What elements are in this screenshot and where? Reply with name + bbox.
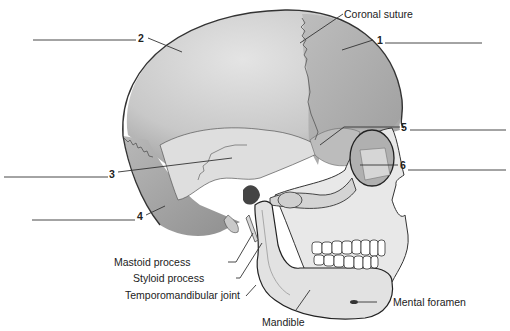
answer-blank-1: [385, 30, 482, 42]
label-number-1: 1: [377, 35, 383, 46]
mastoid-process-label: Mastoid process: [114, 257, 190, 268]
label-number-5: 5: [401, 122, 407, 133]
temporomandibular-joint-label: Temporomandibular joint: [125, 290, 240, 301]
ethmoid-lacrimal: [360, 148, 390, 180]
coronal-suture-label: Coronal suture: [344, 9, 413, 20]
label-number-2: 2: [138, 33, 144, 44]
answer-blank-3: [4, 164, 108, 176]
external-acoustic-meatus: [243, 185, 260, 204]
styloid-process-label: Styloid process: [133, 273, 204, 284]
label-number-6: 6: [400, 160, 406, 171]
answer-blank-5: [410, 117, 506, 129]
mandibular-condyle: [278, 192, 302, 208]
skull-diagram: 1 2 3 4 5 6 Coronal suture Mastoid proce…: [0, 0, 510, 331]
label-number-3: 3: [109, 169, 115, 180]
label-number-4: 4: [137, 211, 143, 222]
answer-blank-2: [33, 27, 136, 39]
answer-blank-4: [32, 207, 135, 219]
mental-foramen-label: Mental foramen: [393, 297, 466, 308]
answer-blank-6: [408, 157, 506, 169]
mental-foramen-hole: [350, 300, 358, 304]
mastoid: [224, 215, 238, 233]
mandible-label: Mandible: [262, 317, 305, 328]
